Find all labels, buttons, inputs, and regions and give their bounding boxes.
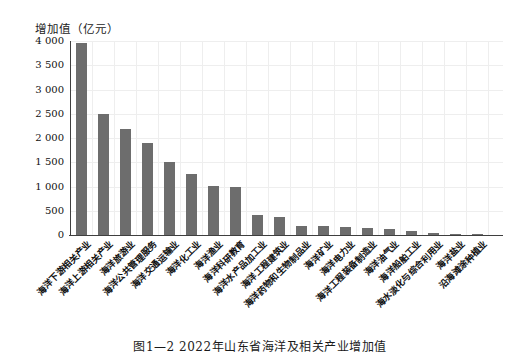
horizontal-gridline [70,187,503,188]
bar [186,174,197,235]
plot-area: 05001 0001 5002 0002 5003 0003 5004 000海… [0,0,520,353]
bar [164,162,175,235]
y-axis-tick-label: 2 500 [0,108,64,120]
y-axis-tick-label: 2 000 [0,132,64,144]
y-axis-tick-label: 0 [0,229,64,241]
horizontal-gridline [70,90,503,91]
bar [274,217,285,235]
horizontal-gridline [70,211,503,212]
y-axis-tick-label: 3 500 [0,59,64,71]
bar [318,226,329,235]
figure-caption: 图1—2 2022年山东省海洋及相关产业增加值 [0,340,520,353]
bar [340,227,351,235]
figure-1-2-bar-chart: 增加值（亿元） 05001 0001 5002 0002 5003 0003 5… [0,0,520,353]
horizontal-gridline [70,65,503,66]
bar [230,187,241,235]
horizontal-gridline [70,41,503,42]
y-axis-tick-label: 1 500 [0,156,64,168]
x-axis-line [69,235,503,236]
bar [252,215,263,235]
y-axis-line [70,41,71,236]
horizontal-gridline [70,114,503,115]
bar [208,186,219,235]
y-axis-tick-label: 1 000 [0,181,64,193]
y-axis-tick-label: 3 000 [0,84,64,96]
bar [98,114,109,235]
bar [76,43,87,235]
bar [362,228,373,235]
bar [142,143,153,235]
horizontal-gridline [70,138,503,139]
y-axis-tick-label: 500 [0,205,64,217]
bar [296,226,307,235]
y-axis-tick-label: 4 000 [0,35,64,47]
horizontal-gridline [70,162,503,163]
bar [120,129,131,235]
